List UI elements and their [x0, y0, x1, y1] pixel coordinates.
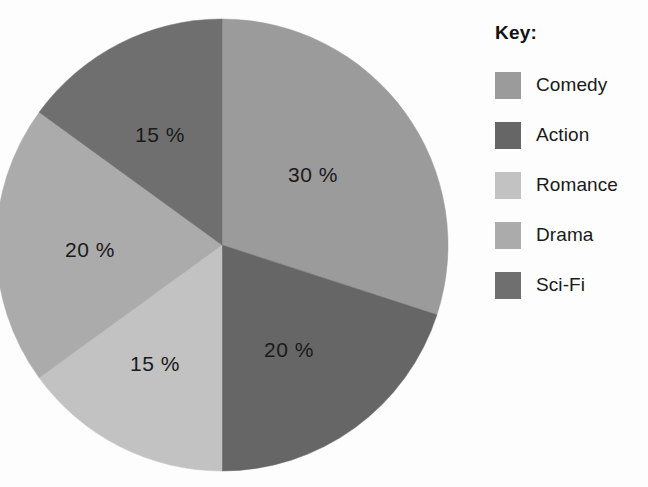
legend-item-label: Comedy — [536, 74, 607, 96]
pie-chart-svg: 30 %20 %15 %20 %15 % — [0, 0, 452, 487]
legend-item-sci-fi: Sci-Fi — [487, 260, 648, 310]
legend-item-drama: Drama — [487, 210, 648, 260]
pie-chart-page: 30 %20 %15 %20 %15 % Key: ComedyActionRo… — [0, 0, 648, 487]
pie-slice-value-label: 20 % — [65, 238, 115, 261]
pie-slice-value-label: 30 % — [288, 163, 338, 186]
legend-item-action: Action — [487, 110, 648, 160]
legend-item-label: Drama — [536, 224, 594, 246]
pie-chart: 30 %20 %15 %20 %15 % — [0, 0, 452, 487]
pie-slice-value-label: 20 % — [264, 338, 314, 361]
pie-slice-value-label: 15 % — [135, 123, 185, 146]
legend-swatch-icon — [495, 172, 521, 199]
legend-swatch-icon — [495, 222, 521, 249]
legend-swatch-icon — [495, 72, 521, 99]
legend-item-romance: Romance — [487, 160, 648, 210]
legend-title: Key: — [495, 22, 648, 44]
legend-swatch-icon — [495, 122, 521, 149]
legend: Key: ComedyActionRomanceDramaSci-Fi — [487, 22, 648, 310]
legend-item-comedy: Comedy — [487, 60, 648, 110]
legend-item-label: Romance — [536, 174, 618, 196]
legend-item-label: Action — [536, 124, 589, 146]
pie-slice-value-label: 15 % — [130, 352, 180, 375]
legend-swatch-icon — [495, 272, 521, 299]
legend-item-label: Sci-Fi — [536, 274, 585, 296]
legend-items: ComedyActionRomanceDramaSci-Fi — [487, 60, 648, 310]
